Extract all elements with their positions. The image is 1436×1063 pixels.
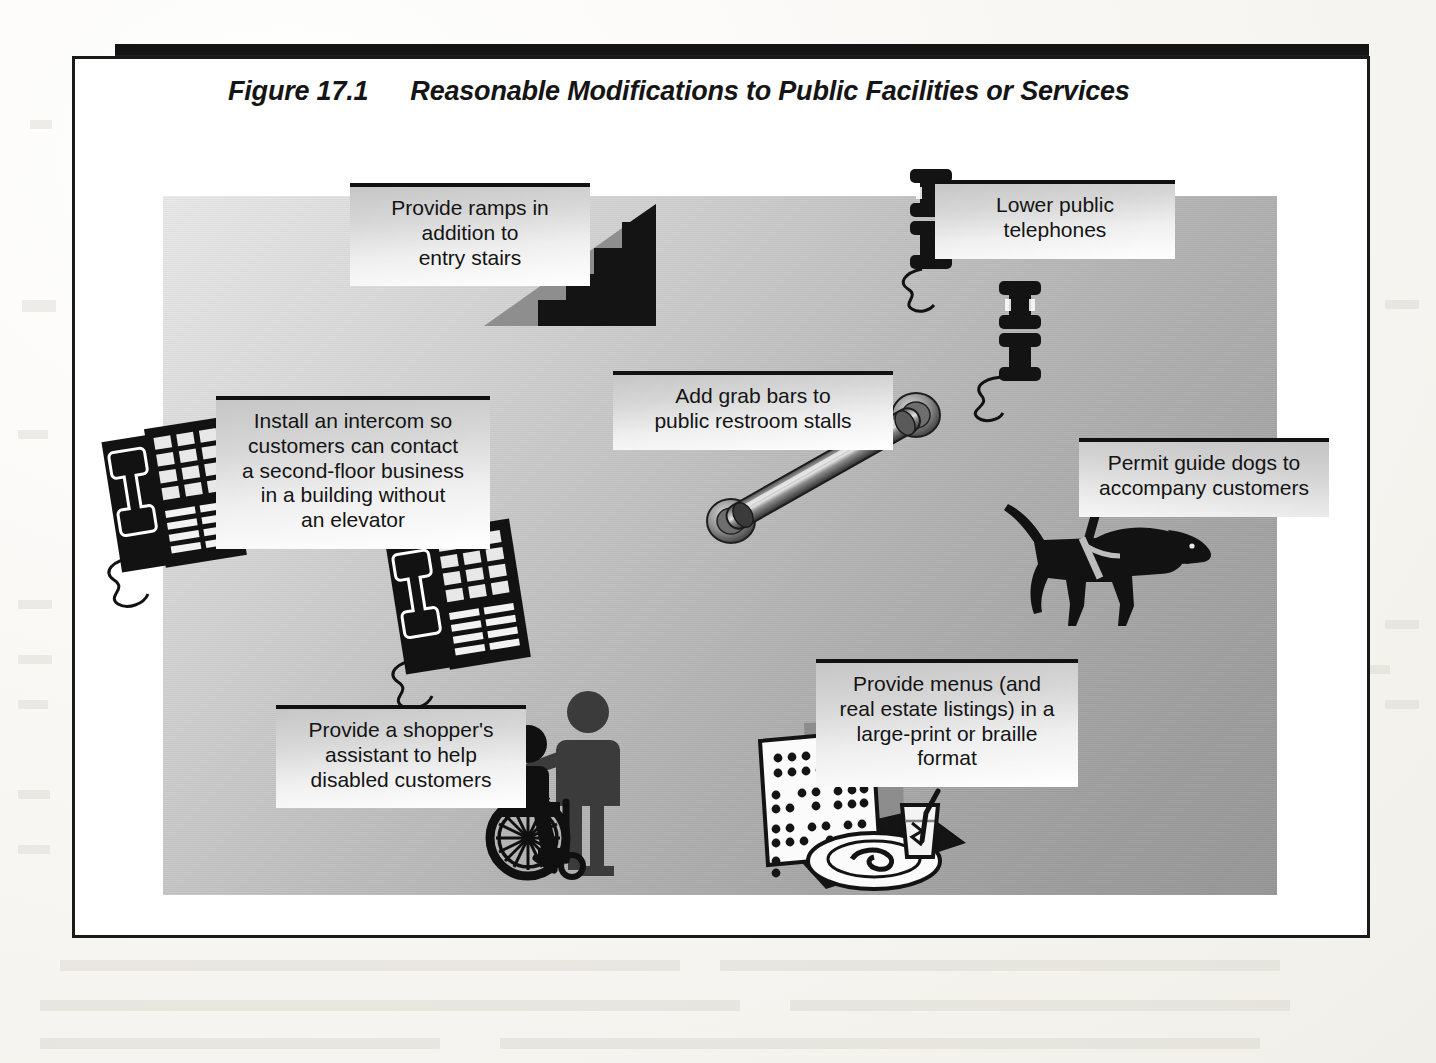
ghost-text [1385,300,1419,309]
callout-braille-menus[interactable]: Provide menus (and real estate listings)… [816,659,1078,787]
callout-line: real estate listings) in a [830,697,1064,722]
callout-guide-dogs[interactable]: Permit guide dogs to accompany customers [1079,438,1329,517]
ghost-text [790,1000,1290,1011]
callout-line: disabled customers [290,768,512,793]
callout-telephones[interactable]: Lower public telephones [935,180,1175,259]
ghost-text [18,790,50,799]
book-page-background: Figure 17.1Reasonable Modifications to P… [0,0,1436,1063]
ghost-text [40,1000,740,1011]
ghost-text [60,960,680,971]
ghost-text [40,1038,440,1049]
ghost-text [18,655,52,664]
ghost-text [30,120,52,129]
figure-title: Figure 17.1Reasonable Modifications to P… [228,76,1130,107]
callout-line: accompany customers [1093,476,1315,501]
callout-line: public restroom stalls [627,409,879,434]
callout-line: Permit guide dogs to [1093,451,1315,476]
callout-line: an elevator [230,508,476,533]
ghost-text [18,700,48,709]
callout-line: Add grab bars to [627,384,879,409]
callout-shoppers-assistant[interactable]: Provide a shopper's assistant to help di… [276,705,526,808]
callout-line: entry stairs [364,246,576,271]
ghost-text [18,430,48,439]
callout-line: Provide menus (and [830,672,1064,697]
callout-line: customers can contact [230,434,476,459]
callout-line: Lower public [949,193,1161,218]
callout-grab-bars[interactable]: Add grab bars to public restroom stalls [613,371,893,450]
wall-telephone-icon [985,277,1055,397]
callout-line: in a building without [230,483,476,508]
callout-line: Provide a shopper's [290,718,512,743]
callout-line: a second-floor business [230,459,476,484]
ghost-text [1385,700,1419,709]
callout-line: large-print or braille [830,722,1064,747]
ghost-text [720,960,1280,971]
figure-title-text: Reasonable Modifications to Public Facil… [410,76,1129,106]
callout-line: format [830,746,1064,771]
callout-line: telephones [949,218,1161,243]
callout-intercom[interactable]: Install an intercom so customers can con… [216,396,490,549]
callout-line: assistant to help [290,743,512,768]
ghost-text [18,845,50,854]
callout-line: addition to [364,221,576,246]
callout-line: Provide ramps in [364,196,576,221]
callout-line: Install an intercom so [230,409,476,434]
ghost-text [18,600,52,609]
ghost-text [1385,620,1419,629]
figure-number: Figure 17.1 [228,76,368,106]
callout-ramps[interactable]: Provide ramps in addition to entry stair… [350,183,590,286]
ghost-text [22,300,56,312]
ghost-text [500,1038,1260,1049]
